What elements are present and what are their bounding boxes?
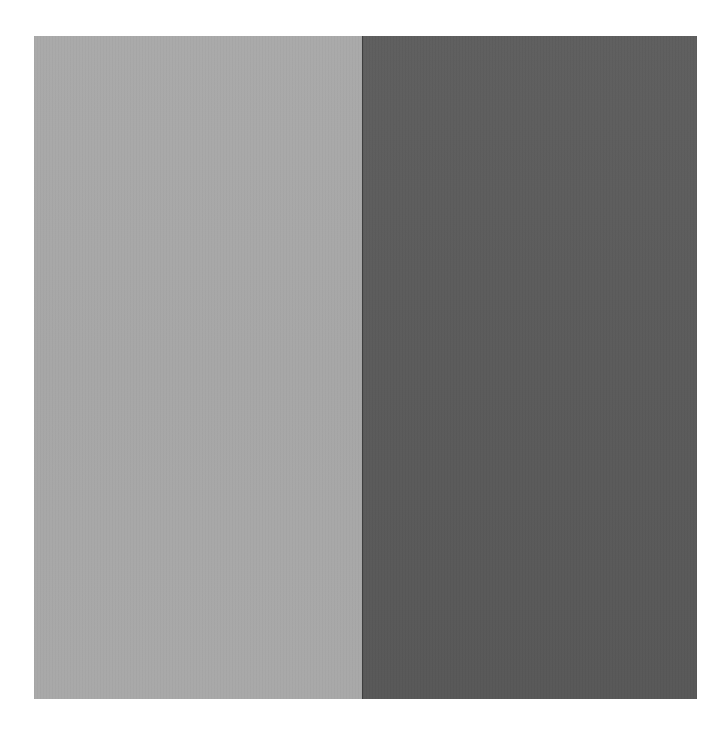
two-panel-artwork (34, 36, 697, 699)
canvas-texture (34, 36, 362, 699)
dark-gray-panel (362, 36, 697, 699)
canvas-texture (363, 36, 697, 699)
light-gray-panel (34, 36, 362, 699)
